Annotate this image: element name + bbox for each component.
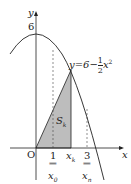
curve-equation: y=6− 1 2 x2	[69, 56, 112, 75]
curve-equation-lhs: y=6−	[69, 59, 98, 70]
x-axis-label: x	[122, 150, 128, 160]
x0-label: x0	[48, 171, 57, 183]
x-tick-3-equals: ‖	[83, 162, 90, 166]
y-axis-arrow-icon	[34, 11, 38, 16]
curve-exponent: 2	[109, 58, 113, 65]
region-label-sk: Sk	[56, 116, 67, 128]
y-axis-label: y	[28, 8, 34, 18]
shaded-region-sk	[36, 70, 71, 148]
origin-label: O	[27, 150, 35, 160]
xk-label: xk	[66, 151, 75, 163]
x-tick-3: 3	[84, 151, 90, 161]
y-tick-6: 6	[28, 22, 34, 32]
region-label-sub: k	[63, 121, 67, 128]
x-tick-1: 1	[50, 151, 56, 161]
x-tick-1-equals: ‖	[49, 162, 56, 166]
xn-label: xn	[82, 171, 92, 183]
region-label-main: S	[56, 115, 63, 126]
